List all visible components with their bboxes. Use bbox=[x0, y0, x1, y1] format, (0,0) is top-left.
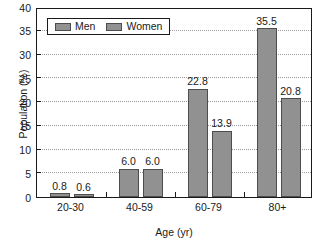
legend-label: Women bbox=[126, 21, 162, 32]
bar-value-label: 35.5 bbox=[250, 16, 284, 27]
y-axis-tick-label: 30 bbox=[2, 50, 31, 61]
bar-value-label: 0.6 bbox=[67, 182, 101, 193]
legend-swatch-icon bbox=[55, 23, 71, 31]
x-axis-tick-label: 20-30 bbox=[31, 201, 111, 213]
x-axis-tick-label: 80+ bbox=[238, 201, 318, 213]
y-axis-tick-label: 10 bbox=[2, 145, 31, 156]
y-axis-tick-label: 0 bbox=[2, 193, 31, 204]
bar-value-label: 13.9 bbox=[205, 118, 239, 129]
x-axis-tick-label: 60-79 bbox=[169, 201, 249, 213]
y-axis-tick-label: 20 bbox=[2, 98, 31, 109]
x-axis-tick-label: 40-59 bbox=[100, 201, 180, 213]
plot-area: 0.80.66.06.022.813.935.520.8 bbox=[36, 8, 312, 198]
x-axis-title: Age (yr) bbox=[36, 226, 312, 238]
y-axis-tick-label: 5 bbox=[2, 169, 31, 180]
legend-entry: Men bbox=[55, 21, 95, 32]
y-axis-tick-label: 15 bbox=[2, 121, 31, 132]
legend-entry: Women bbox=[106, 21, 162, 32]
bar-value-labels: 0.80.66.06.022.813.935.520.8 bbox=[37, 9, 311, 197]
y-axis-tick-label: 35 bbox=[2, 26, 31, 37]
bar-value-label: 20.8 bbox=[274, 86, 308, 97]
legend-label: Men bbox=[75, 21, 95, 32]
chart-legend: MenWomen bbox=[47, 18, 170, 35]
bar-value-label: 22.8 bbox=[181, 76, 215, 87]
y-axis-tick-label: 25 bbox=[2, 74, 31, 85]
bar-value-label: 6.0 bbox=[136, 156, 170, 167]
bar-chart-figure: Population (%) 0510152025303540 0.80.66.… bbox=[0, 0, 322, 244]
legend-swatch-icon bbox=[106, 23, 122, 31]
y-axis-tick-label: 40 bbox=[2, 3, 31, 14]
